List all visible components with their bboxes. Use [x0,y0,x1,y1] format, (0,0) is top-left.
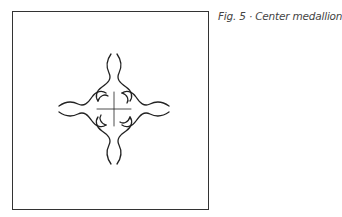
figure-frame [12,11,209,210]
figure-caption: Fig. 5 · Center medallion [218,10,342,22]
medallion-drawing [13,12,210,211]
